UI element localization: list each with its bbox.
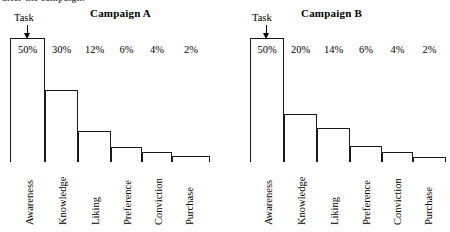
value-label-conviction: 4% xyxy=(142,44,172,55)
value-label-preference: 6% xyxy=(111,44,142,55)
value-label-purchase: 2% xyxy=(413,44,446,55)
value-label-awareness: 50% xyxy=(250,44,284,55)
category-label-conviction: Conviction xyxy=(153,178,164,225)
category-label-liking: Liking xyxy=(90,197,101,225)
plot-area: 50% 30% 12% 6% 4% 2% Awareness Knowledge… xyxy=(0,0,225,232)
chart-campaign-a: Campaign A Task 50% 30% 12% 6% 4% 2% Awa… xyxy=(0,0,225,232)
bar-purchase[interactable] xyxy=(172,156,210,162)
bar-preference[interactable] xyxy=(350,146,382,162)
value-label-preference: 6% xyxy=(350,44,382,55)
value-label-awareness: 50% xyxy=(10,44,45,55)
bar-awareness[interactable] xyxy=(250,38,284,162)
bar-conviction[interactable] xyxy=(382,152,413,162)
plot-area: 50% 20% 14% 6% 4% 2% Awareness Knowledge… xyxy=(225,0,450,232)
value-label-liking: 12% xyxy=(78,44,111,55)
bar-conviction[interactable] xyxy=(142,152,172,162)
value-label-conviction: 4% xyxy=(382,44,413,55)
bar-awareness[interactable] xyxy=(10,38,45,162)
category-label-preference: Preference xyxy=(122,180,133,225)
category-label-knowledge: Knowledge xyxy=(57,177,68,225)
bar-preference[interactable] xyxy=(111,147,142,162)
chart-campaign-b: Campaign B Task 50% 20% 14% 6% 4% 2% Awa… xyxy=(225,0,450,232)
value-label-knowledge: 20% xyxy=(284,44,317,55)
bar-knowledge[interactable] xyxy=(284,114,317,162)
category-label-awareness: Awareness xyxy=(24,180,35,225)
category-label-knowledge: Knowledge xyxy=(296,177,307,225)
category-label-purchase: Purchase xyxy=(184,187,195,225)
category-label-liking: Liking xyxy=(329,197,340,225)
bar-knowledge[interactable] xyxy=(45,90,78,162)
category-label-preference: Preference xyxy=(361,180,372,225)
value-label-purchase: 2% xyxy=(172,44,210,55)
bar-liking[interactable] xyxy=(78,131,111,162)
bar-liking[interactable] xyxy=(317,128,350,162)
value-label-knowledge: 30% xyxy=(45,44,78,55)
bar-purchase[interactable] xyxy=(413,157,446,162)
category-label-conviction: Conviction xyxy=(392,178,403,225)
value-label-liking: 14% xyxy=(317,44,350,55)
category-label-awareness: Awareness xyxy=(263,180,274,225)
category-label-purchase: Purchase xyxy=(423,187,434,225)
